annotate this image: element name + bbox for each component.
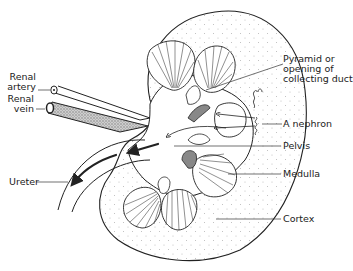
label-nephron: A nephron: [283, 119, 332, 129]
label-pelvis: Pelvis: [283, 141, 310, 151]
label-pyramid: Pyramid or opening of collecting duct: [283, 54, 353, 84]
label-renal-artery: Renal artery: [2, 72, 36, 92]
label-cortex: Cortex: [283, 214, 314, 224]
label-ureter: Ureter: [9, 177, 39, 187]
label-renal-vein: Renal vein: [2, 94, 34, 114]
renal-artery-line2: artery: [2, 82, 36, 92]
renal-vein-line2: vein: [2, 104, 34, 114]
label-medulla: Medulla: [283, 169, 320, 179]
kidney-diagram: [0, 0, 353, 271]
pyramid-line3: collecting duct: [283, 74, 353, 84]
